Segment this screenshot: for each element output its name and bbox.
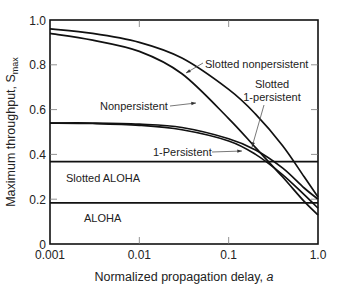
annotation-slotted-nonpersistent: Slotted nonpersistent xyxy=(205,58,308,70)
annotation-slotted-aloha: Slotted ALOHA xyxy=(66,172,141,184)
x-axis-ticks: 0.0010.010.11.0 xyxy=(35,20,327,262)
x-tick-label: 1.0 xyxy=(310,248,327,262)
throughput-chart: 00.20.40.60.81.0 0.0010.010.11.0 Slotted… xyxy=(0,0,340,288)
annotation-nonpersistent: Nonpersistent xyxy=(100,100,168,112)
y-tick-label: 0.8 xyxy=(29,58,46,72)
y-axis-ticks: 00.20.40.60.81.0 xyxy=(29,14,318,252)
x-tick-label: 0.01 xyxy=(128,248,152,262)
series-line-1-persistent xyxy=(50,123,318,208)
x-tick-label: 0.1 xyxy=(220,248,237,262)
annotation-slotted-1-persistent-line2: 1-persistent xyxy=(243,91,300,103)
annotation-aloha: ALOHA xyxy=(84,212,122,224)
x-tick-label: 0.001 xyxy=(35,248,65,262)
series-lines xyxy=(50,29,318,215)
chart-svg: 00.20.40.60.81.0 0.0010.010.11.0 Slotted… xyxy=(0,0,340,288)
y-tick-label: 0.6 xyxy=(29,103,46,117)
x-axis-label: Normalized propagation delay, a xyxy=(94,270,273,284)
annotation-slotted-1-persistent: Slotted xyxy=(255,78,289,90)
y-tick-label: 0.4 xyxy=(29,148,46,162)
annotation-1-persistent: 1-Persistent xyxy=(153,146,212,158)
plot-border xyxy=(50,20,318,244)
y-tick-label: 1.0 xyxy=(29,14,46,28)
y-axis-label: Maximum throughput, Smax xyxy=(4,57,20,207)
plot-frame xyxy=(50,20,318,244)
annotations: Slotted nonpersistentNonpersistentSlotte… xyxy=(66,58,308,224)
y-tick-label: 0.2 xyxy=(29,193,46,207)
